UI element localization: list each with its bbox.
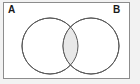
venn-diagram-figure: A B	[0, 0, 140, 84]
venn-diagram-frame	[3, 2, 130, 79]
venn-diagram-canvas	[4, 3, 131, 80]
set-a-label: A	[8, 5, 15, 15]
set-b-label: B	[113, 5, 120, 15]
